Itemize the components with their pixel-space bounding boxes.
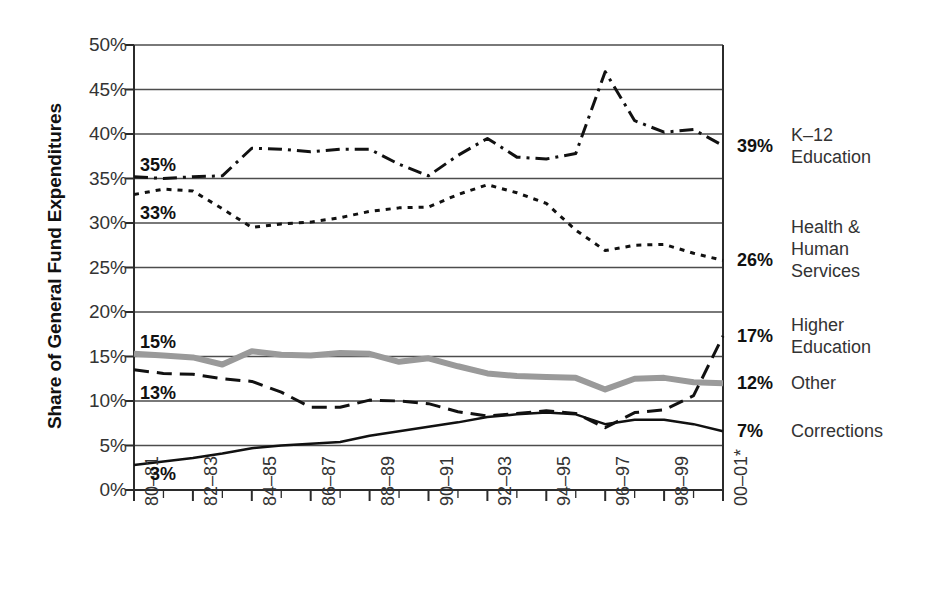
series-legend-label-line: K–12	[791, 124, 871, 146]
series-legend-label: K–12Education	[791, 124, 871, 168]
x-tick-label: 92–93	[495, 456, 516, 506]
y-tick-label: 40%	[63, 123, 127, 145]
x-tick-label: 82–83	[201, 456, 222, 506]
series-start-value: 35%	[140, 155, 176, 176]
chart-plot-area	[0, 0, 930, 610]
y-tick-label: 25%	[63, 257, 127, 279]
series-end-value: 26%	[737, 250, 773, 271]
gridlines	[134, 45, 723, 446]
x-tick-label: 98–99	[672, 456, 693, 506]
series-legend-label-line: Health &	[791, 216, 860, 238]
series-start-value: 13%	[140, 383, 176, 404]
series-legend-label: Corrections	[791, 420, 883, 442]
series-legend-label-line: Higher	[791, 314, 871, 336]
series-legend-label: Health &HumanServices	[791, 216, 860, 282]
series-line-k-12-education	[134, 72, 723, 179]
series-end-value: 39%	[737, 135, 773, 156]
series-lines	[134, 72, 723, 465]
y-tick-label: 0%	[63, 479, 127, 501]
x-tick-label: 90–91	[437, 456, 458, 506]
series-start-value: 3%	[150, 464, 176, 485]
series-line-corrections	[134, 413, 723, 466]
series-end-value: 7%	[737, 421, 763, 442]
series-end-value: 17%	[737, 326, 773, 347]
x-tick-label: 00–01*	[731, 449, 752, 506]
series-legend-label-line: Other	[791, 372, 836, 394]
y-tick-label: 15%	[63, 346, 127, 368]
series-legend-label: HigherEducation	[791, 314, 871, 358]
series-legend-label-line: Services	[791, 260, 860, 282]
y-tick-label: 30%	[63, 212, 127, 234]
y-tick-label: 5%	[63, 435, 127, 457]
y-tick-label: 20%	[63, 301, 127, 323]
series-end-value: 12%	[737, 373, 773, 394]
y-tick-label: 10%	[63, 390, 127, 412]
x-axis-ticks	[134, 481, 723, 501]
series-legend-label-line: Education	[791, 146, 871, 168]
chart-figure: Share of General Fund Expenditures 0%5%1…	[0, 0, 930, 610]
y-axis-tick-labels: 0%5%10%15%20%25%30%35%40%45%50%	[63, 0, 127, 610]
x-tick-label: 86–87	[319, 456, 340, 506]
series-start-value: 33%	[140, 203, 176, 224]
y-tick-label: 35%	[63, 168, 127, 190]
y-tick-label: 50%	[63, 34, 127, 56]
x-tick-label: 94–95	[554, 456, 575, 506]
x-tick-label: 84–85	[260, 456, 281, 506]
y-tick-label: 45%	[63, 79, 127, 101]
x-tick-label: 88–89	[378, 456, 399, 506]
series-start-value: 15%	[140, 332, 176, 353]
series-legend-label: Other	[791, 372, 836, 394]
x-tick-label: 96–97	[613, 456, 634, 506]
series-legend-label-line: Education	[791, 336, 871, 358]
series-legend-label-line: Corrections	[791, 420, 883, 442]
series-legend-label-line: Human	[791, 238, 860, 260]
